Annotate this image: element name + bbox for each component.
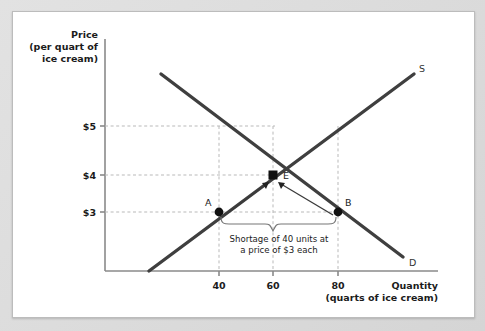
y-axis-title: Price xyxy=(71,29,98,40)
y-axis-subtitle-line1: (per quart of xyxy=(29,41,99,52)
x-tick-label-60: 60 xyxy=(266,280,280,291)
marker-label-e: E xyxy=(283,170,289,181)
shortage-annotation-line2: a price of $3 each xyxy=(240,245,318,255)
demand-curve-label: D xyxy=(409,257,416,268)
x-axis-title: Quantity xyxy=(391,280,438,291)
adjustment-arrows-group xyxy=(225,182,333,215)
marker-label-a: A xyxy=(205,197,212,208)
arrow-from-a xyxy=(225,184,266,215)
figure-root: S D A E B $5 $ xyxy=(0,0,485,331)
chart-card: S D A E B $5 $ xyxy=(12,11,475,318)
supply-curve-label: S xyxy=(419,63,425,74)
x-tick-labels-group: 40 60 80 xyxy=(212,280,345,291)
shortage-brace xyxy=(221,217,336,231)
y-axis-title-group: Price (per quart of ice cream) xyxy=(29,29,99,64)
y-tick-label-3: $3 xyxy=(83,207,96,218)
y-tick-labels-group: $5 $4 $3 xyxy=(83,121,97,218)
y-tick-label-4: $4 xyxy=(83,170,97,181)
marker-point-e xyxy=(269,171,278,180)
shortage-annotation-line1: Shortage of 40 units at xyxy=(230,234,330,244)
x-tick-label-80: 80 xyxy=(331,280,345,291)
demand-curve xyxy=(161,74,403,257)
x-axis-subtitle: (quarts of ice cream) xyxy=(325,292,438,303)
x-tick-label-40: 40 xyxy=(212,280,226,291)
supply-demand-plot: S D A E B $5 $ xyxy=(13,12,474,317)
shortage-annotation-group: Shortage of 40 units at a price of $3 ea… xyxy=(230,234,330,255)
y-tick-label-5: $5 xyxy=(83,121,96,132)
y-axis-subtitle-line2: ice cream) xyxy=(42,53,98,64)
marker-label-b: B xyxy=(345,197,352,208)
marker-point-b xyxy=(334,208,343,217)
marker-point-a xyxy=(215,208,224,217)
